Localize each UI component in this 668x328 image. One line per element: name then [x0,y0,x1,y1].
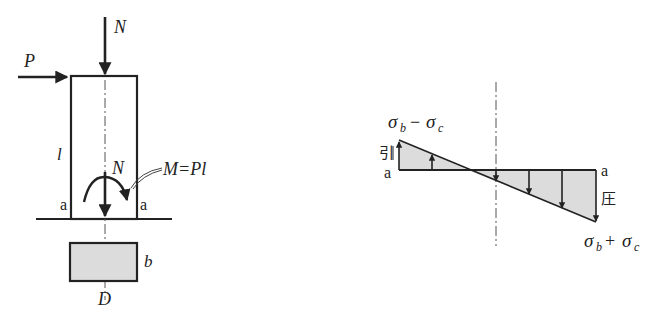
label-depth-D: D [97,289,111,309]
svg-text:b: b [596,240,602,254]
svg-text:−: − [410,112,420,132]
stress-diagram-figure: N P l N M=Pl a a b D [0,0,668,328]
label-moment: M=Pl [162,159,206,179]
svg-text:b: b [400,121,406,135]
stress-distribution: σ b − σ c 引 圧 a a σ b + σ c [379,82,640,254]
svg-text:σ: σ [584,230,594,251]
label-section-a-right: a [601,162,608,179]
svg-text:σ: σ [388,111,398,132]
column-view: N P l N M=Pl a a b D [18,17,206,309]
svg-text:c: c [438,121,444,135]
label-N-top: N [113,17,127,37]
label-N-inner: N [111,158,125,178]
label-tension-stress: σ b − σ c [388,111,444,135]
label-compression-stress: σ b + σ c [584,230,640,254]
label-compression: 圧 [601,190,616,208]
svg-text:c: c [634,240,640,254]
label-P: P [23,51,35,71]
label-section-a-left: a [60,196,67,213]
cross-section [70,243,137,281]
svg-text:+: + [605,231,615,251]
svg-text:σ: σ [426,111,436,132]
label-section-a-left: a [384,164,391,181]
label-tension: 引 [379,144,394,162]
svg-text:σ: σ [622,230,632,251]
label-width-b: b [144,252,153,271]
label-section-a-right: a [140,196,147,213]
label-length-l: l [57,145,62,164]
